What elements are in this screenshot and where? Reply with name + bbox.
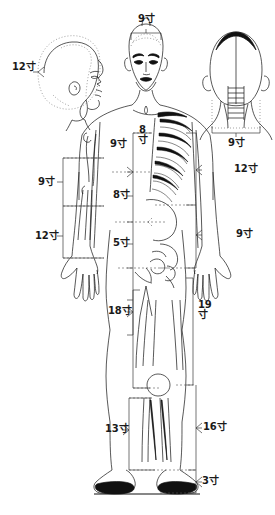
head-posterior-view — [200, 32, 272, 140]
label-shank-13cun: 13寸 — [105, 424, 128, 434]
label-sternum-8cun: 8寸 — [138, 125, 147, 145]
label-upper-arm-9cun: 9寸 — [38, 177, 55, 187]
head-lateral-view — [38, 36, 103, 131]
label-shank-lateral-16cun: 16寸 — [203, 422, 226, 432]
label-forearm-12cun: 12寸 — [35, 231, 58, 241]
label-head-side-12cun: 12寸 — [12, 62, 35, 72]
label-thigh-lateral-19cun: 19寸 — [198, 300, 207, 320]
bracket-shank — [123, 398, 155, 470]
label-head-back-9cun: 9寸 — [228, 138, 245, 148]
label-foot-3cun: 3寸 — [202, 476, 219, 486]
label-thigh-18cun: 18寸 — [108, 306, 131, 316]
label-right-upper-arm-12cun: 12寸 — [234, 164, 257, 174]
bracket-head-back — [212, 126, 260, 137]
label-right-forearm-9cun: 9寸 — [236, 229, 253, 239]
label-thigh-lateral-unit: 寸 — [198, 309, 208, 320]
bracket-right-arm — [186, 133, 202, 268]
label-abdomen-lower-5cun: 5寸 — [113, 238, 130, 248]
bracket-thigh-lateral — [186, 278, 193, 385]
bracket-left-arm — [57, 158, 104, 258]
bracket-head-top — [131, 29, 161, 40]
diagram-canvas: 12寸 9寸 9寸 9寸 12寸 9寸 8寸 8寸 5寸 12寸 9寸 18寸 … — [0, 0, 275, 515]
label-sternum-unit: 寸 — [138, 134, 148, 145]
label-head-top-9cun: 9寸 — [138, 14, 155, 24]
anatomy-illustration — [0, 0, 275, 515]
label-abdomen-upper-8cun: 8寸 — [113, 190, 130, 200]
label-chest-9cun: 9寸 — [110, 139, 127, 149]
